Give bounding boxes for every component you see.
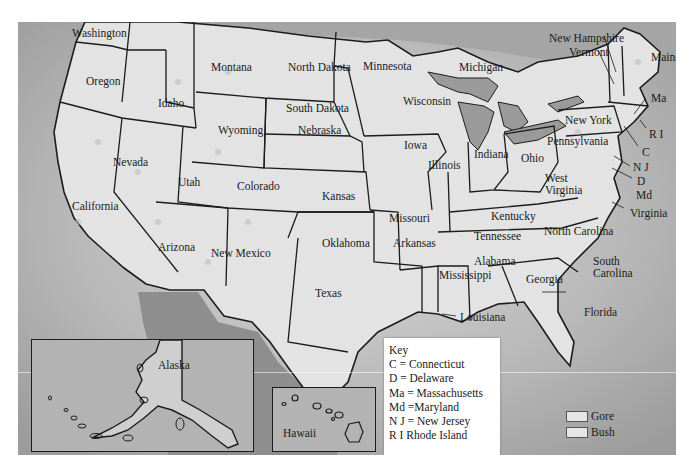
state-label-nebraska: Nebraska (298, 125, 341, 137)
state-label-maine: Maine (651, 52, 676, 64)
hawaii-label: Hawaii (283, 428, 316, 440)
state-label-tennessee: Tennessee (474, 231, 521, 243)
state-label-iowa: Iowa (404, 140, 427, 152)
key-item-maryland: Md =Maryland (384, 400, 500, 414)
state-label-arkansas: Arkansas (393, 238, 436, 250)
legend-label-gore: Gore (591, 410, 614, 422)
state-label-virginia: Virginia (545, 185, 582, 197)
state-label-r-i: R I (649, 129, 663, 141)
state-label-florida: Florida (584, 307, 617, 319)
hawaii-shape (273, 388, 375, 451)
state-label-louisiana: Louisiana (460, 312, 505, 324)
state-label-kentucky: Kentucky (491, 211, 536, 223)
state-label-minnesota: Minnesota (363, 61, 412, 73)
state-label-vermont: Vermont (569, 47, 609, 59)
state-label-south-dakota: South Dakota (286, 103, 349, 115)
gore-swatch (566, 411, 588, 422)
state-label-oregon: Oregon (86, 76, 121, 88)
legend-item-gore: Gore (566, 408, 615, 424)
us-map: WashingtonOregonIdahoMontanaNorth Dakota… (18, 22, 676, 455)
state-label-d: D (637, 176, 645, 188)
alaska-inset: Alaska (31, 339, 254, 452)
state-label-idaho: Idaho (158, 98, 184, 110)
state-label-carolina: Carolina (593, 268, 633, 280)
key-item-connecticut: C = Connecticut (384, 357, 500, 371)
state-label-georgia: Georgia (526, 274, 563, 286)
state-label-wyoming: Wyoming (218, 125, 263, 137)
state-label-indiana: Indiana (474, 149, 508, 161)
hawaii-inset: Hawaii (272, 387, 376, 452)
state-label-ma: Ma (651, 93, 666, 105)
abbreviation-key: Key C = Connecticut D = Delaware Ma = Ma… (384, 338, 500, 455)
state-label-kansas: Kansas (322, 191, 355, 203)
state-label-west: West (545, 173, 568, 185)
state-label-texas: Texas (315, 288, 342, 300)
state-label-new-york: New York (565, 115, 612, 127)
state-label-oklahoma: Oklahoma (322, 238, 370, 250)
state-label-south: South (593, 256, 620, 268)
state-label-utah: Utah (178, 177, 200, 189)
state-label-arizona: Arizona (158, 242, 195, 254)
bush-swatch (566, 427, 588, 438)
key-title: Key (384, 338, 500, 357)
state-label-n-j: N J (633, 162, 649, 174)
key-item-new-jersey: N J = New Jersey (384, 414, 500, 428)
color-legend: Gore Bush (566, 408, 615, 440)
key-item-massachusetts: Ma = Massachusetts (384, 386, 500, 400)
alaska-label: Alaska (158, 360, 190, 372)
state-label-new-hampshire: New Hampshire (549, 33, 624, 45)
state-label-north-carolina: North Carolina (544, 226, 613, 238)
state-label-montana: Montana (211, 62, 252, 74)
state-label-california: California (72, 201, 119, 213)
state-label-mississippi: Mississippi (439, 270, 491, 282)
state-label-illinois: Illinois (428, 160, 461, 172)
state-label-north-dakota: North Dakota (288, 62, 351, 74)
state-label-washington: Washington (72, 28, 127, 40)
state-label-michigan: Michigan (459, 62, 503, 74)
legend-item-bush: Bush (566, 424, 615, 440)
key-item-delaware: D = Delaware (384, 371, 500, 385)
state-label-virginia: Virginia (630, 208, 667, 220)
state-label-ohio: Ohio (521, 153, 544, 165)
state-label-alabama: Alabama (474, 256, 516, 268)
state-label-missouri: Missouri (389, 213, 430, 225)
key-item-rhode-island: R I Rhode Island (384, 428, 500, 442)
alaska-shape (32, 340, 253, 451)
state-label-new-mexico: New Mexico (211, 248, 271, 260)
state-label-colorado: Colorado (237, 181, 280, 193)
legend-label-bush: Bush (591, 426, 615, 438)
state-label-pennsylvania: Pennsylvania (547, 136, 608, 148)
state-label-wisconsin: Wisconsin (403, 96, 451, 108)
state-label-md: Md (636, 190, 652, 202)
state-label-c: C (642, 147, 650, 159)
state-label-nevada: Nevada (113, 157, 148, 169)
